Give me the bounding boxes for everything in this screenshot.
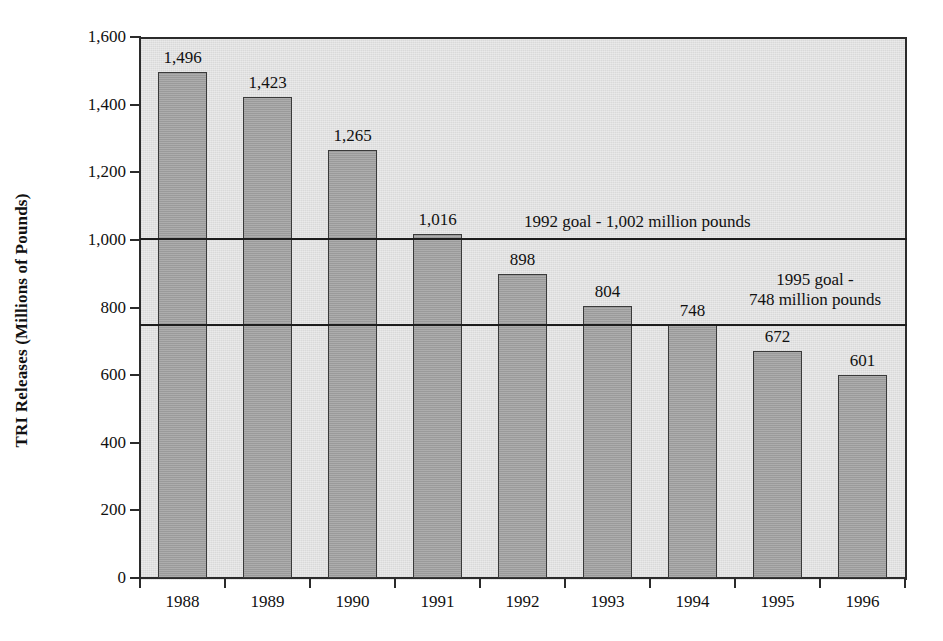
bar — [413, 234, 462, 578]
y-axis-title-text: TRI Releases (Millions of Pounds) — [12, 193, 32, 447]
x-axis-tick-label: 1995 — [733, 592, 823, 612]
chart-container: TRI Releases (Millions of Pounds) 020040… — [0, 0, 943, 641]
y-axis-tick-label: 1,000 — [56, 231, 126, 248]
y-axis-tick-label: 800 — [56, 299, 126, 316]
reference-line-label-line: 1992 goal - 1,002 million pounds — [524, 212, 751, 232]
y-axis-tick-label: 400 — [56, 434, 126, 451]
bar — [243, 97, 292, 578]
bar-value-label: 1,016 — [383, 210, 493, 230]
x-axis-tick-label: 1993 — [563, 592, 653, 612]
reference-line-1992-goal — [140, 238, 907, 240]
y-axis-tick-label: 1,600 — [56, 28, 126, 45]
x-axis-tick-label: 1991 — [393, 592, 483, 612]
bar-value-label: 898 — [468, 250, 578, 270]
x-axis-tick — [394, 578, 396, 588]
y-axis-tick-label: 1,200 — [56, 163, 126, 180]
bar — [668, 325, 717, 578]
bar-value-label: 672 — [723, 327, 833, 347]
y-axis-tick — [130, 104, 140, 106]
bar-value-label: 601 — [808, 351, 918, 371]
bar — [498, 274, 547, 578]
x-axis-tick-label: 1996 — [818, 592, 908, 612]
x-axis-tick — [309, 578, 311, 588]
bar — [753, 351, 802, 578]
x-axis-tick-label: 1994 — [648, 592, 738, 612]
reference-line-label-line: 1995 goal - — [690, 270, 940, 290]
bar — [328, 150, 377, 578]
x-axis-tick-label: 1990 — [308, 592, 398, 612]
y-axis-tick — [130, 239, 140, 241]
x-axis-tick-label: 1989 — [223, 592, 313, 612]
reference-line-label-1995-goal: 1995 goal -748 million pounds — [690, 270, 940, 310]
bar — [838, 375, 887, 578]
reference-line-label-line: 748 million pounds — [690, 290, 940, 310]
y-axis-tick — [130, 171, 140, 173]
reference-line-1995-goal — [140, 324, 907, 326]
y-axis-tick-label: 600 — [56, 366, 126, 383]
bar — [583, 306, 632, 578]
bar-value-label: 1,265 — [298, 126, 408, 146]
bar-value-label: 804 — [553, 282, 663, 302]
x-axis-tick — [479, 578, 481, 588]
x-axis-tick — [819, 578, 821, 588]
reference-line-label-1992-goal: 1992 goal - 1,002 million pounds — [524, 212, 751, 232]
x-axis-tick-label: 1992 — [478, 592, 568, 612]
y-axis-tick-label: 0 — [56, 569, 126, 586]
x-axis-tick — [734, 578, 736, 588]
x-axis-tick — [904, 578, 906, 588]
y-axis-tick — [130, 442, 140, 444]
bar-value-label: 1,496 — [128, 48, 238, 68]
bar-value-label: 1,423 — [213, 73, 323, 93]
x-axis-tick — [564, 578, 566, 588]
y-axis-tick — [130, 36, 140, 38]
x-axis-tick-label: 1988 — [138, 592, 228, 612]
y-axis-tick-label: 1,400 — [56, 96, 126, 113]
y-axis-tick — [130, 509, 140, 511]
y-axis-tick — [130, 374, 140, 376]
x-axis-tick — [139, 578, 141, 588]
y-axis-tick-label: 200 — [56, 501, 126, 518]
y-axis-tick — [130, 307, 140, 309]
y-axis-title: TRI Releases (Millions of Pounds) — [0, 0, 44, 641]
x-axis-tick — [649, 578, 651, 588]
x-axis-tick — [224, 578, 226, 588]
